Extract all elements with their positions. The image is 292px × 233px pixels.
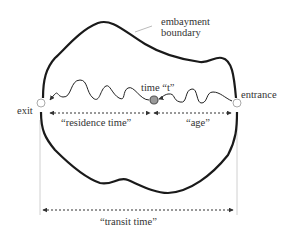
boundary-label-line1: embayment: [161, 16, 210, 27]
boundary-label: embayment boundary: [161, 16, 210, 38]
exit-marker: [37, 99, 45, 107]
boundary-pointer-line: [135, 26, 152, 32]
boundary-label-line2: boundary: [161, 27, 210, 38]
exit-label: exit: [17, 105, 33, 116]
residence-time-label: “residence time”: [61, 117, 131, 128]
entrance-marker: [233, 99, 241, 107]
transit-time-label: “transit time”: [100, 216, 157, 227]
embayment-diagram: [0, 0, 292, 233]
age-label: “age”: [186, 117, 210, 128]
entrance-label: entrance: [241, 89, 277, 100]
time-t-label: time “t”: [141, 82, 175, 93]
particle-path-to-exit: [50, 80, 149, 100]
time-t-marker: [150, 96, 158, 104]
